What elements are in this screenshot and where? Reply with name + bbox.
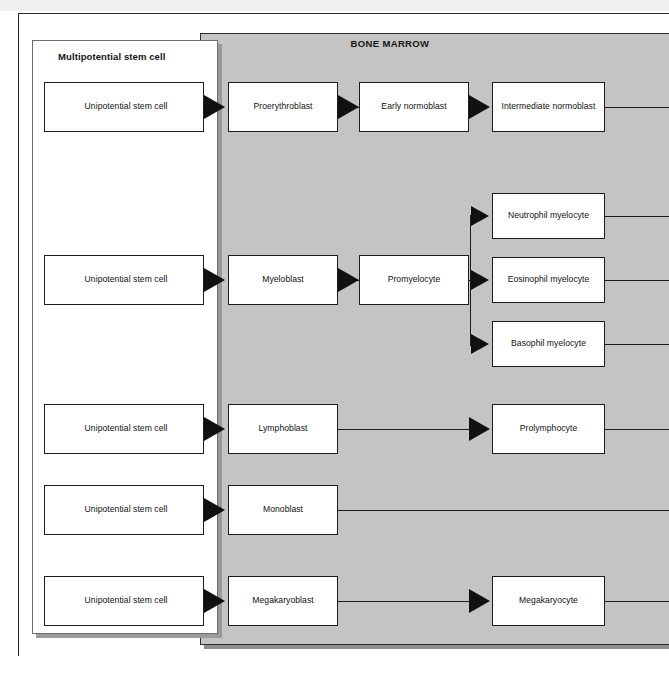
node-lymphoblast: Lymphoblast — [228, 404, 338, 454]
page-top-crop-text: · · ·· · · · ·· · · ·· · — [26, 0, 143, 3]
line-megakaryoblast-to-megakaryocyte — [338, 601, 472, 602]
node-unipotential-stem-cell-2: Unipotential stem cell — [44, 255, 204, 305]
page-top-crop-strip: · · ·· · · · ·· · · ·· · — [0, 0, 669, 11]
arrow-lymphoblast-to-prolymphocyte — [469, 417, 490, 441]
node-monoblast: Monoblast — [228, 485, 338, 535]
line-megakaryocyte-offpage — [605, 601, 669, 602]
line-neutrophil-myelocyte-offpage — [605, 216, 669, 217]
arrow-to-neutrophil-myelocyte — [471, 206, 489, 226]
arrow-myeloblast-to-promyelocyte — [338, 268, 359, 292]
node-megakaryoblast: Megakaryoblast — [228, 576, 338, 626]
arrow-stem-to-lymphoblast — [204, 417, 225, 441]
arrow-proerythroblast-to-early-normoblast — [338, 95, 359, 119]
line-prolymphocyte-offpage — [605, 429, 669, 430]
node-proerythroblast: Proerythroblast — [228, 82, 338, 132]
node-unipotential-stem-cell-5: Unipotential stem cell — [44, 576, 204, 626]
line-lymphoblast-to-prolymphocyte — [338, 429, 472, 430]
node-myeloblast: Myeloblast — [228, 255, 338, 305]
line-eosinophil-myelocyte-offpage — [605, 280, 669, 281]
arrow-megakaryoblast-to-megakaryocyte — [469, 589, 490, 613]
node-promyelocyte: Promyelocyte — [359, 255, 469, 305]
node-prolymphocyte: Prolymphocyte — [492, 404, 605, 454]
bone-marrow-label: BONE MARROW — [330, 38, 450, 49]
node-unipotential-stem-cell-1: Unipotential stem cell — [44, 82, 204, 132]
hematopoiesis-diagram: · · ·· · · · ·· · · ·· · BONE MARROW Mul… — [0, 0, 669, 676]
node-megakaryocyte: Megakaryocyte — [492, 576, 605, 626]
node-early-normoblast: Early normoblast — [359, 82, 469, 132]
arrow-to-eosinophil-myelocyte — [471, 270, 489, 290]
line-intermediate-normoblast-offpage — [605, 107, 669, 108]
node-basophil-myelocyte: Basophil myelocyte — [492, 321, 605, 367]
arrow-stem-to-myeloblast — [204, 268, 225, 292]
node-neutrophil-myelocyte: Neutrophil myelocyte — [492, 193, 605, 239]
arrow-stem-to-megakaryoblast — [204, 589, 225, 613]
line-basophil-myelocyte-offpage — [605, 344, 669, 345]
line-monoblast-offpage — [338, 510, 669, 511]
arrow-stem-to-proerythroblast — [204, 95, 225, 119]
arrow-to-basophil-myelocyte — [471, 334, 489, 354]
node-eosinophil-myelocyte: Eosinophil myelocyte — [492, 257, 605, 303]
node-unipotential-stem-cell-4: Unipotential stem cell — [44, 485, 204, 535]
arrow-early-to-intermediate-normoblast — [469, 95, 490, 119]
node-unipotential-stem-cell-3: Unipotential stem cell — [44, 404, 204, 454]
arrow-stem-to-monoblast — [204, 498, 225, 522]
multipotential-stem-cell-label: Multipotential stem cell — [58, 51, 165, 62]
node-intermediate-normoblast: Intermediate normoblast — [492, 82, 605, 132]
